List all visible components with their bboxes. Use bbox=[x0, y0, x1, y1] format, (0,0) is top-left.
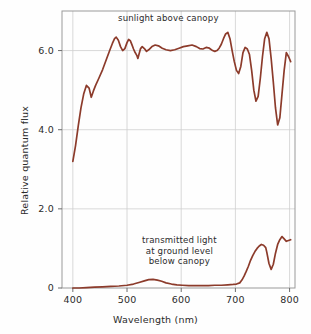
y-tick-label-2: 2.0 bbox=[28, 203, 54, 214]
y-tick-label-4: 4.0 bbox=[28, 124, 54, 135]
x-tick-label-700: 700 bbox=[215, 294, 255, 305]
x-tick-label-600: 600 bbox=[161, 294, 201, 305]
series-line-0 bbox=[73, 32, 291, 161]
annotation-sunlight-above-canopy: sunlight above canopy bbox=[118, 13, 219, 24]
x-tick-label-500: 500 bbox=[107, 294, 147, 305]
y-tick-label-6: 6.0 bbox=[28, 45, 54, 56]
x-axis-title: Wavelength (nm) bbox=[0, 314, 311, 325]
annotation-line-2: at ground level bbox=[142, 246, 217, 257]
x-tick-label-400: 400 bbox=[53, 294, 93, 305]
annotation-line-1: transmitted light bbox=[142, 235, 217, 246]
x-tick-label-800: 800 bbox=[270, 294, 310, 305]
chart-figure: 400500600700800 02.04.06.0 Wavelength (n… bbox=[0, 0, 311, 334]
y-axis-title: Relative quantum flux bbox=[19, 106, 30, 215]
y-tick-label-0: 0 bbox=[28, 282, 54, 293]
annotation-line-3: below canopy bbox=[142, 256, 217, 267]
annotation-transmitted-light: transmitted light at ground level below … bbox=[142, 235, 217, 267]
